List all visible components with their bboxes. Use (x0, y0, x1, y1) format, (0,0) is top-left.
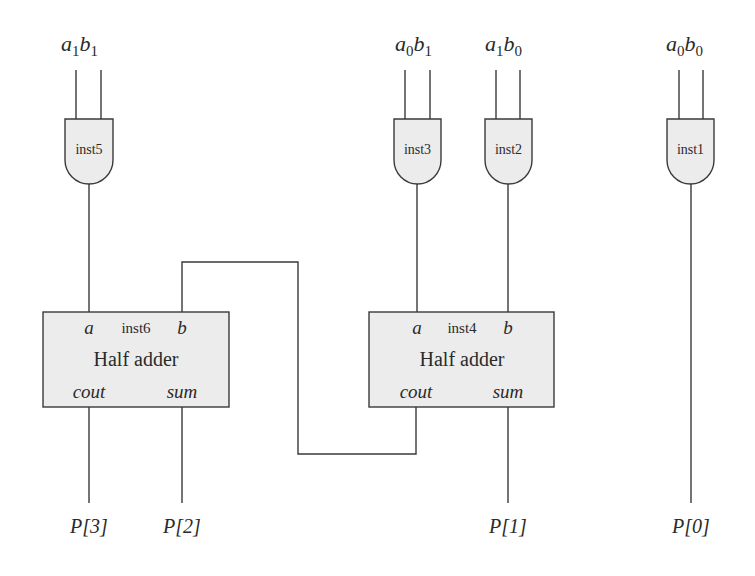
multiplier-circuit-diagram: a1b1 a0b1 a1b0 a0b0 inst5 inst3 inst2 in… (0, 0, 755, 576)
half-adder-inst4: a inst4 b Half adder cout sum (369, 312, 554, 407)
output-label-p2: P[2] (162, 515, 201, 537)
port-a: a (412, 317, 422, 338)
gate-label: inst5 (75, 142, 102, 157)
output-label-p0: P[0] (671, 515, 710, 537)
output-label-p1: P[1] (488, 515, 527, 537)
input-label-a1b0: a1b0 (485, 31, 522, 59)
input-wires (76, 70, 703, 119)
and-gate-inst1: inst1 (667, 119, 714, 184)
block-title: Half adder (420, 348, 505, 370)
port-b: b (177, 317, 187, 338)
port-a: a (84, 317, 94, 338)
gate-label: inst3 (404, 142, 431, 157)
port-cout: cout (73, 381, 106, 402)
gate-label: inst2 (495, 142, 522, 157)
and-gate-inst2: inst2 (485, 119, 532, 184)
instance-label: inst4 (447, 320, 477, 336)
and-gate-inst5: inst5 (65, 119, 113, 184)
half-adder-inst6: a inst6 b Half adder cout sum (43, 312, 229, 407)
input-label-a1b1: a1b1 (61, 31, 98, 59)
input-label-a0b1: a0b1 (395, 31, 432, 59)
port-cout: cout (400, 381, 433, 402)
input-label-a0b0: a0b0 (666, 31, 703, 59)
port-b: b (503, 317, 513, 338)
and-gate-inst3: inst3 (394, 119, 441, 184)
port-sum: sum (167, 381, 198, 402)
gate-label: inst1 (677, 142, 704, 157)
port-sum: sum (493, 381, 524, 402)
block-title: Half adder (94, 348, 179, 370)
output-label-p3: P[3] (69, 515, 108, 537)
instance-label: inst6 (121, 320, 151, 336)
